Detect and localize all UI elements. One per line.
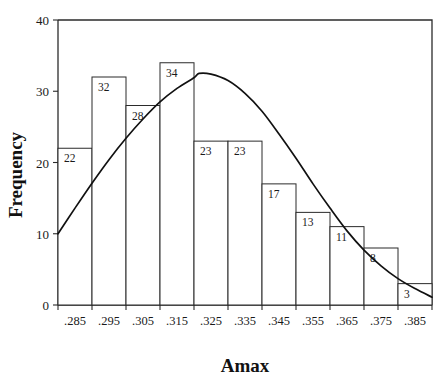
x-tick-label: .355 — [302, 314, 324, 328]
table-row — [262, 184, 296, 305]
bar-value-label: 34 — [166, 67, 178, 79]
x-tick-label: .305 — [132, 314, 154, 328]
y-tick-label: 40 — [36, 13, 49, 28]
table-row — [160, 63, 194, 305]
x-tick-label: .335 — [234, 314, 256, 328]
y-tick-label: 0 — [43, 298, 50, 313]
chart-canvas: 010203040 .285.295.305.315.325.335.345.3… — [0, 0, 446, 384]
x-axis-ticks: .285.295.305.315.325.335.345.355.365.375… — [58, 305, 432, 328]
bar-value-label: 23 — [234, 145, 246, 157]
y-tick-label: 30 — [36, 84, 49, 99]
table-row — [126, 106, 160, 306]
y-axis-title: Frequency — [5, 131, 26, 218]
x-tick-label: .365 — [336, 314, 358, 328]
histogram-bars — [58, 63, 432, 305]
bar-value-label: 3 — [404, 288, 410, 300]
y-tick-label: 10 — [36, 227, 49, 242]
bar-value-label: 32 — [98, 81, 110, 93]
bar-value-label: 22 — [64, 152, 76, 164]
histogram-figure: 010203040 .285.295.305.315.325.335.345.3… — [0, 0, 446, 384]
bar-value-label: 13 — [302, 216, 314, 228]
bar-value-label: 11 — [336, 231, 347, 243]
x-tick-label: .285 — [64, 314, 86, 328]
x-tick-label: .345 — [268, 314, 290, 328]
x-tick-label: .325 — [200, 314, 222, 328]
x-tick-label: .385 — [404, 314, 426, 328]
x-axis-title: Amax — [221, 355, 270, 376]
x-tick-label: .375 — [370, 314, 392, 328]
y-axis-ticks: 010203040 — [36, 13, 58, 313]
table-row — [228, 141, 262, 305]
bar-value-label: 23 — [200, 145, 212, 157]
table-row — [92, 77, 126, 305]
x-tick-label: .315 — [166, 314, 188, 328]
x-tick-label: .295 — [98, 314, 120, 328]
bar-value-label: 17 — [268, 188, 280, 200]
table-row — [194, 141, 228, 305]
y-tick-label: 20 — [36, 156, 49, 171]
